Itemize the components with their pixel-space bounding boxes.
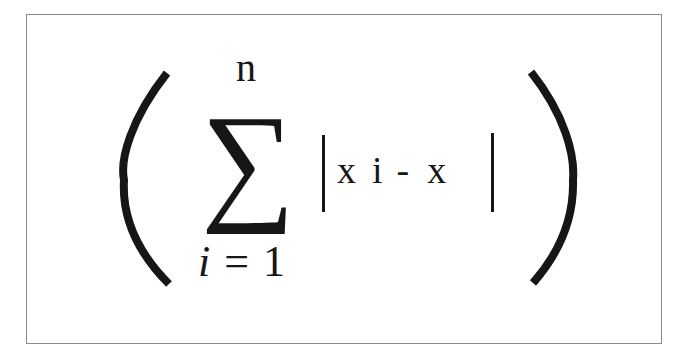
index-variable: i [198,237,210,286]
equals-sign: = [224,237,249,286]
summand-subscript-i: i [372,151,383,189]
summand: xi-x [337,151,446,189]
minus-sign: - [397,151,410,189]
upper-limit: n [236,48,256,88]
sigma-icon: ∑ [201,96,295,228]
summand-term-mean-x: x [427,151,446,189]
absolute-value-right-bar [491,133,494,212]
absolute-value-left-bar [322,135,325,212]
start-index: 1 [263,237,285,286]
lower-limit: i=1 [198,240,285,284]
summand-term-x: x [337,151,356,189]
